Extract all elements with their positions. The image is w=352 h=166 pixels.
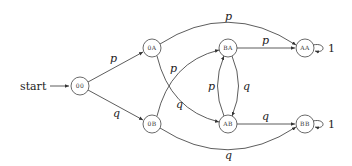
edge-label-AA-loop: 1 xyxy=(328,42,335,55)
edge-BB-loop xyxy=(313,121,323,128)
edge-label-BA-AB: q xyxy=(243,80,250,93)
state-0A: 0A xyxy=(143,39,161,57)
state-label: 0A xyxy=(147,44,156,51)
state-label: BB xyxy=(300,120,310,127)
edge-label-0A-AA: p xyxy=(225,10,232,23)
edge-label-AB-BA: p xyxy=(208,80,215,93)
state-0B: 0B xyxy=(143,115,161,133)
state-BA: BA xyxy=(219,39,237,57)
state-diagram: start p q p q p q p q p q 1 1 00 0A 0B xyxy=(0,0,352,166)
start-label: start xyxy=(20,80,47,93)
edge-label-00-0A: p xyxy=(110,52,117,65)
edge-label-BA-AA: p xyxy=(262,34,269,47)
state-label: AA xyxy=(299,44,310,51)
edge-AB-BA xyxy=(218,56,225,116)
edge-label-0B-BB: q xyxy=(225,149,232,162)
edge-label-00-0B: q xyxy=(113,107,120,120)
edge-label-0B-BA: p xyxy=(170,62,177,75)
state-label: 0B xyxy=(147,120,156,127)
edge-label-BB-loop: 1 xyxy=(328,118,335,131)
state-BB: BB xyxy=(296,115,314,133)
state-AB: AB xyxy=(219,115,237,133)
state-label: AB xyxy=(222,120,233,127)
state-00: 00 xyxy=(71,77,89,95)
edge-label-AB-BB: q xyxy=(262,110,269,123)
state-AA: AA xyxy=(296,39,314,57)
edge-label-0A-AB: q xyxy=(176,98,183,111)
edge-BA-AB xyxy=(232,56,239,116)
edge-AA-loop xyxy=(313,45,323,52)
state-label: BA xyxy=(223,44,233,51)
state-label: 00 xyxy=(76,82,85,89)
